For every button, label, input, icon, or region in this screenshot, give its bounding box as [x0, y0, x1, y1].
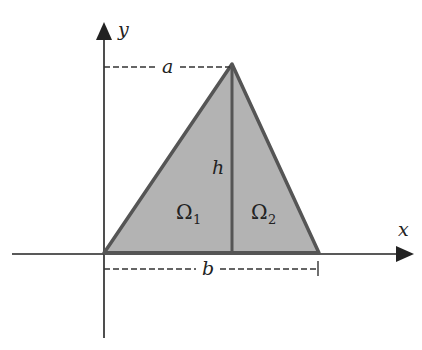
x-axis-arrow-icon: [396, 246, 414, 262]
region-2-label: Ω: [251, 200, 268, 224]
region-2-subscript: 2: [268, 212, 276, 227]
a-label: a: [162, 55, 173, 77]
triangle-diagram: y x a b h Ω 1 Ω 2: [0, 0, 422, 350]
x-axis-label: x: [398, 218, 409, 240]
y-axis-label: y: [117, 18, 129, 40]
b-label: b: [202, 257, 214, 279]
region-1-label: Ω: [176, 200, 193, 224]
y-axis-arrow-icon: [96, 22, 112, 40]
h-label: h: [212, 156, 224, 178]
region-1-subscript: 1: [193, 212, 201, 227]
